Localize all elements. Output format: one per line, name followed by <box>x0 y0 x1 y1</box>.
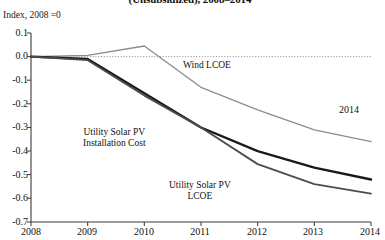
annotation-wind-lcoe: Wind LCOE <box>183 60 231 71</box>
y-axis-ticks <box>27 33 31 222</box>
x-axis-ticks <box>31 222 371 226</box>
annotation-solar-installation-cost: Utility Solar PV Installation Cost <box>83 127 146 149</box>
annotation-solar-lcoe-line1: Utility Solar PV <box>169 180 231 191</box>
series-line-utility-solar-pv-installation-cost <box>31 57 371 180</box>
annotation-solar-lcoe-line2: LCOE <box>169 191 231 202</box>
annotation-solar-installation-cost-line1: Utility Solar PV <box>83 127 146 138</box>
series-line-utility-solar-pv-lcoe <box>31 57 371 194</box>
annotation-solar-installation-cost-line2: Installation Cost <box>83 138 146 149</box>
annotation-wind-lcoe-text: Wind LCOE <box>183 60 231 70</box>
annotation-solar-lcoe: Utility Solar PV LCOE <box>169 180 231 202</box>
annotation-year-2014: 2014 <box>339 104 359 115</box>
